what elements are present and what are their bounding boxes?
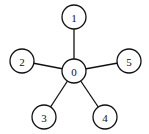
node-2: 2 (10, 49, 34, 73)
node-label: 1 (71, 12, 77, 24)
node-label: 0 (71, 66, 77, 78)
node-label: 3 (41, 112, 47, 124)
node-label: 4 (102, 112, 108, 124)
node-1: 1 (62, 5, 86, 29)
node-3: 3 (32, 105, 56, 129)
node-label: 2 (19, 56, 25, 68)
node-5: 5 (117, 49, 141, 73)
node-0: 0 (62, 59, 86, 83)
nodes: 012345 (10, 5, 141, 129)
node-label: 5 (126, 56, 132, 68)
node-4: 4 (93, 105, 117, 129)
star-graph-diagram: 012345 (0, 0, 149, 134)
